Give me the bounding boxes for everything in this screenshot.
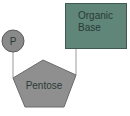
pentose-node: Pentose [13,60,76,107]
organic-base-node: Organic Base [66,4,127,49]
nucleotide-diagram: Organic Base P Pentose [0,0,130,116]
organic-base-label-line2: Base [78,22,101,33]
organic-base-label-line1: Organic [78,10,113,21]
phosphate-label: P [10,36,17,47]
phosphate-node: P [2,30,24,52]
pentose-label: Pentose [26,80,63,91]
